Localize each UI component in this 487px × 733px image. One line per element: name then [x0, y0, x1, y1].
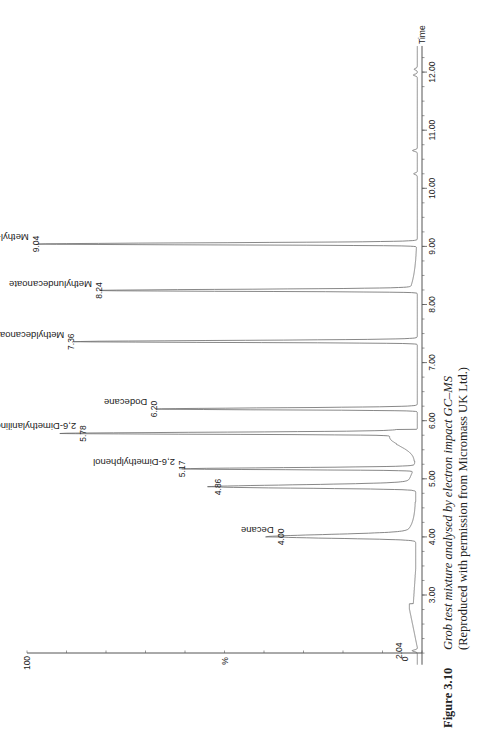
figure-label: Figure 3.10 — [441, 668, 455, 728]
peak-name-label: 2,6-Dimethylaniline — [0, 421, 76, 432]
time-tick-label: 12.00 — [427, 61, 437, 83]
time-tick-label: 11.00 — [427, 120, 437, 141]
peak-labels: 2.044.00Decane4.865.172,6-Dimethylphenol… — [0, 232, 404, 659]
intensity-unit-label: % — [220, 657, 230, 665]
peak-rt-label: 4.86 — [213, 478, 223, 495]
peak-rt-label: 6.20 — [149, 401, 159, 418]
chromatogram-line — [38, 46, 417, 665]
axes: 3.004.005.006.007.008.009.0010.0011.0012… — [22, 25, 437, 670]
peak-name-label: Methyl-laurate — [0, 232, 29, 243]
figure-caption: Figure 3.10 Grob test mixture analysed b… — [441, 367, 470, 728]
time-tick-label: 3.00 — [427, 586, 437, 603]
peak-name-label: Methylundecanoate — [9, 279, 92, 290]
peak-name-label: Dodecane — [104, 397, 147, 408]
peak-rt-label: 7.36 — [66, 333, 76, 350]
peak-rt-label: 8.24 — [94, 282, 104, 299]
chromatogram-trace — [38, 46, 417, 665]
time-tick-label: 4.00 — [427, 528, 437, 545]
time-tick-label: 10.00 — [427, 177, 437, 199]
time-tick-label: 8.00 — [427, 296, 437, 313]
peak-rt-label: 4.00 — [276, 528, 286, 545]
peak-rt-label: 5.17 — [177, 460, 187, 477]
time-axis-label: Time — [417, 25, 427, 44]
time-tick-label: 9.00 — [427, 238, 437, 255]
peak-rt-label: 9.04 — [31, 236, 41, 253]
time-tick-label: 7.00 — [427, 354, 437, 371]
peak-name-label: Methyldecanoate — [0, 330, 64, 341]
figure-credit: (Reproduced with permission from Microma… — [456, 367, 470, 650]
peak-rt-label: 5.78 — [78, 425, 88, 442]
peak-rt-label: 2.04 — [394, 642, 404, 659]
chromatogram-figure: 3.004.005.006.007.008.009.0010.0011.0012… — [0, 0, 487, 733]
intensity-max-label: 100 — [22, 656, 32, 670]
time-tick-label: 6.00 — [427, 412, 437, 429]
time-tick-label: 5.00 — [427, 470, 437, 487]
figure-title: Grob test mixture analysed by electron i… — [441, 375, 455, 650]
peak-name-label: 2,6-Dimethylphenol — [93, 457, 175, 468]
peak-name-label: Decane — [241, 525, 274, 536]
